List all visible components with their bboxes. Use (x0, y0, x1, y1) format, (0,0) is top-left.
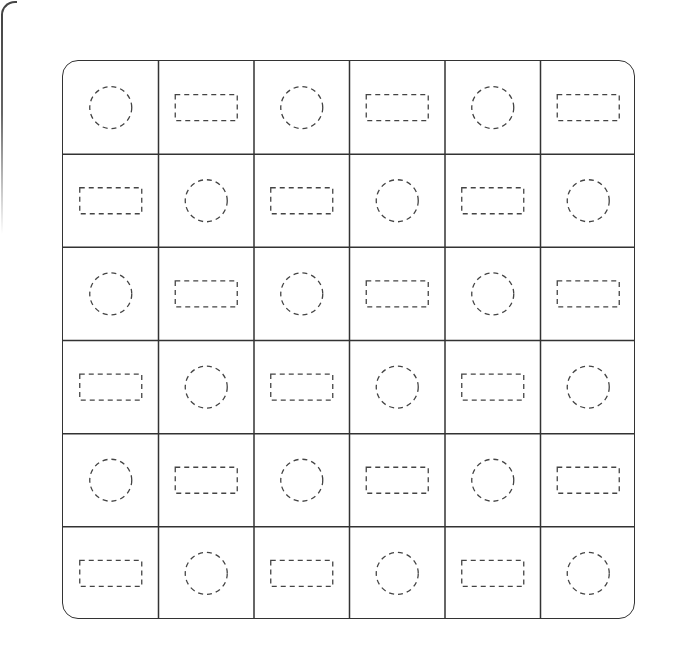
dashed-rectangle-icon (557, 467, 619, 493)
dashed-circle-icon (90, 459, 132, 501)
page-edge-corner (1, 1, 17, 17)
dashed-rectangle-icon (366, 281, 428, 307)
dashed-circle-icon (567, 552, 609, 594)
grid-drawing (63, 61, 635, 619)
dashed-circle-icon (472, 459, 514, 501)
dashed-rectangle-icon (175, 281, 237, 307)
dashed-rectangle-icon (80, 560, 142, 586)
dashed-circle-icon (281, 459, 323, 501)
dashed-circle-icon (567, 366, 609, 408)
dashed-rectangle-icon (462, 374, 524, 400)
dashed-circle-icon (281, 87, 323, 129)
dashed-rectangle-icon (175, 467, 237, 493)
dashed-rectangle-icon (366, 95, 428, 121)
dashed-rectangle-icon (271, 560, 333, 586)
dashed-circle-icon (376, 180, 418, 222)
dashed-circle-icon (185, 366, 227, 408)
dashed-circle-icon (90, 273, 132, 315)
dashed-rectangle-icon (557, 281, 619, 307)
dashed-circle-icon (185, 180, 227, 222)
shape-tracing-grid (62, 60, 635, 619)
dashed-circle-icon (376, 366, 418, 408)
dashed-circle-icon (185, 552, 227, 594)
dashed-circle-icon (472, 273, 514, 315)
dashed-rectangle-icon (80, 374, 142, 400)
dashed-rectangle-icon (462, 188, 524, 214)
dashed-circle-icon (376, 552, 418, 594)
dashed-rectangle-icon (271, 374, 333, 400)
dashed-rectangle-icon (271, 188, 333, 214)
dashed-circle-icon (472, 87, 514, 129)
dashed-rectangle-icon (80, 188, 142, 214)
dashed-rectangle-icon (175, 95, 237, 121)
dashed-circle-icon (281, 273, 323, 315)
dashed-rectangle-icon (462, 560, 524, 586)
dashed-circle-icon (567, 180, 609, 222)
dashed-rectangle-icon (557, 95, 619, 121)
page-edge (1, 14, 3, 234)
dashed-circle-icon (90, 87, 132, 129)
dashed-rectangle-icon (366, 467, 428, 493)
